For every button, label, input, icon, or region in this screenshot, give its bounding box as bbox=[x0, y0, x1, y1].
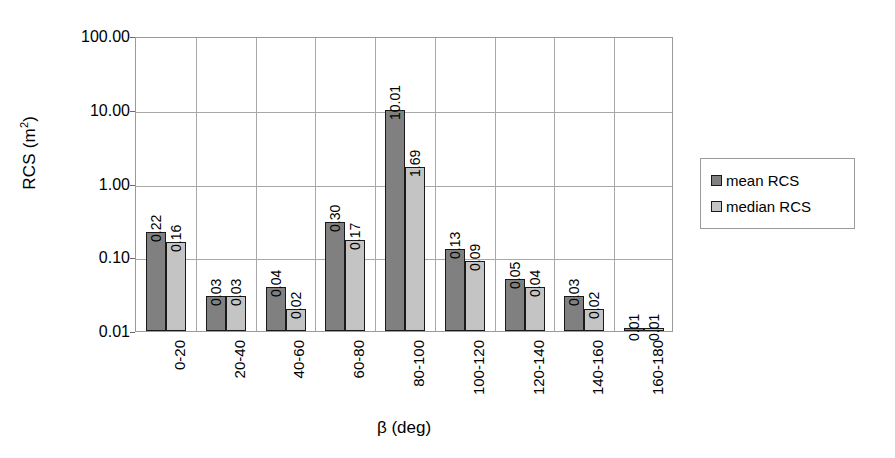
legend-label: mean RCS bbox=[726, 173, 799, 188]
rcs-bar-chart: RCS (m2) 100.0010.001.000.100.01 0.220.1… bbox=[0, 0, 895, 458]
y-axis-tick-mark bbox=[130, 185, 135, 186]
y-axis-tick-mark bbox=[130, 37, 135, 38]
y-axis-title-close: ) bbox=[20, 116, 39, 122]
x-axis-tick-label: 100-120 bbox=[471, 340, 486, 395]
y-axis-tick-label: 100.00 bbox=[40, 29, 130, 45]
y-axis-title-base: RCS (m bbox=[20, 128, 39, 190]
legend-label: median RCS bbox=[726, 199, 811, 214]
y-axis-title: RCS (m2) bbox=[18, 88, 40, 218]
y-axis-tick-label: 10.00 bbox=[40, 103, 130, 119]
legend-item: mean RCS bbox=[711, 167, 844, 193]
x-axis-tick-label: 20-40 bbox=[232, 340, 247, 378]
x-axis-tick-label: 40-60 bbox=[291, 340, 306, 378]
x-axis-title: β (deg) bbox=[135, 418, 673, 438]
x-axis-tick-label: 120-140 bbox=[531, 340, 546, 395]
y-axis-tick-label: 1.00 bbox=[40, 177, 130, 193]
y-axis-tick-mark bbox=[130, 258, 135, 259]
x-axis-tick-label: 80-100 bbox=[411, 340, 426, 387]
y-axis-tick-labels: 100.0010.001.000.100.01 bbox=[38, 0, 130, 458]
y-axis-tick-mark bbox=[130, 111, 135, 112]
chart-legend: mean RCSmedian RCS bbox=[700, 158, 855, 229]
x-axis-tick-label: 140-160 bbox=[590, 340, 605, 395]
x-axis-tick-label: 0-20 bbox=[172, 340, 187, 370]
legend-item: median RCS bbox=[711, 193, 844, 219]
x-axis-tick-label: 60-80 bbox=[351, 340, 366, 378]
legend-swatch-icon bbox=[711, 201, 722, 212]
y-axis-title-superscript: 2 bbox=[18, 122, 30, 128]
y-axis-tick-marks bbox=[135, 37, 673, 332]
x-axis-tick-label: 160-180 bbox=[650, 340, 665, 395]
y-axis-tick-label: 0.10 bbox=[40, 250, 130, 266]
y-axis-tick-label: 0.01 bbox=[40, 324, 130, 340]
x-axis-tick-labels: 0-2020-4040-6060-8080-100100-120120-1401… bbox=[135, 332, 673, 422]
legend-swatch-icon bbox=[711, 175, 722, 186]
